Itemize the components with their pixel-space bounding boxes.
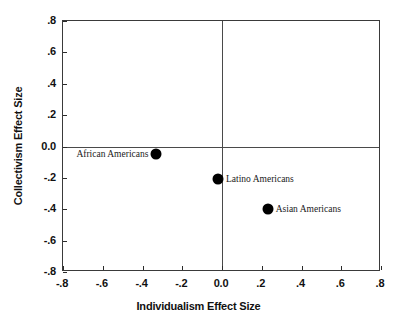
- y-axis-tick-label: -.6: [20, 234, 56, 246]
- x-axis-tick-label: -.6: [96, 277, 108, 289]
- data-point-label: African Americans: [76, 149, 148, 159]
- x-axis-tick: [222, 266, 223, 270]
- data-point-marker[interactable]: [262, 204, 273, 215]
- x-axis-tick: [182, 266, 183, 270]
- x-axis-tick-label: .2: [256, 277, 265, 289]
- y-axis-tick-label: -.8: [20, 265, 56, 277]
- x-axis-tick: [341, 266, 342, 270]
- y-axis-tick: [63, 84, 67, 85]
- scatter-plot-figure: African AmericansLatino AmericansAsian A…: [0, 0, 397, 321]
- x-axis-tick: [143, 266, 144, 270]
- y-axis-tick: [63, 52, 67, 53]
- x-axis-tick-label: .6: [336, 277, 345, 289]
- y-axis-tick-label: 0.0: [20, 140, 56, 152]
- y-axis-tick: [63, 178, 67, 179]
- x-axis-tick: [262, 266, 263, 270]
- y-axis-tick: [63, 272, 67, 273]
- x-axis-tick: [381, 266, 382, 270]
- y-axis-tick: [63, 21, 67, 22]
- y-axis-tick-label: -.2: [20, 171, 56, 183]
- x-axis-tick-label: -.8: [56, 277, 68, 289]
- y-axis-tick: [63, 241, 67, 242]
- y-axis-tick: [63, 209, 67, 210]
- data-point-label: Asian Americans: [276, 204, 341, 214]
- zero-line-horizontal: [63, 147, 379, 148]
- data-point-marker[interactable]: [151, 149, 162, 160]
- x-axis-tick-label: 0.0: [214, 277, 229, 289]
- plot-area: African AmericansLatino AmericansAsian A…: [62, 20, 380, 271]
- y-axis-tick: [63, 115, 67, 116]
- zero-line-vertical: [222, 21, 223, 270]
- data-point-marker[interactable]: [213, 174, 224, 185]
- x-axis-tick-label: -.2: [175, 277, 187, 289]
- x-axis-title: Individualism Effect Size: [0, 300, 397, 312]
- y-axis-tick-label: .6: [20, 45, 56, 57]
- y-axis-tick-label: -.4: [20, 202, 56, 214]
- y-axis-tick-label: .8: [20, 14, 56, 26]
- data-point-label: Latino Americans: [226, 174, 294, 184]
- x-axis-tick-label: .4: [296, 277, 305, 289]
- y-axis-tick-label: .4: [20, 77, 56, 89]
- x-axis-tick: [63, 266, 64, 270]
- y-axis-tick: [63, 147, 67, 148]
- x-axis-tick: [302, 266, 303, 270]
- x-axis-tick-label: -.4: [135, 277, 147, 289]
- x-axis-tick-label: .8: [376, 277, 385, 289]
- y-axis-tick-label: .2: [20, 108, 56, 120]
- x-axis-tick: [103, 266, 104, 270]
